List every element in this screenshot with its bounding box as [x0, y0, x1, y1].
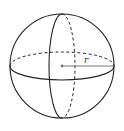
sphere-diagram: r — [0, 0, 124, 131]
meridian-visible-arc — [49, 14, 62, 118]
equator-hidden-arc — [10, 52, 114, 66]
radius-label: r — [84, 55, 89, 65]
equator-visible-arc — [10, 66, 114, 80]
center-point — [61, 65, 64, 68]
